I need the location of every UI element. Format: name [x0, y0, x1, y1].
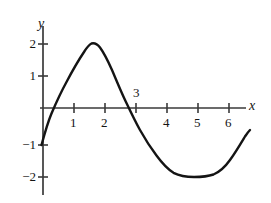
y-tick-label-minus-2: −2: [8, 170, 36, 183]
x-tick-label-3: 3: [133, 86, 140, 99]
y-tick-label-minus-1: −1: [8, 138, 36, 151]
y-tick-label-1: 1: [12, 69, 36, 82]
function-graph-figure: y x 2 1 −1 −2 1 2 3 4 5 6: [0, 0, 271, 203]
function-curve: [42, 43, 251, 177]
x-tick-label-1: 1: [70, 116, 77, 129]
x-tick-label-2: 2: [101, 116, 108, 129]
x-tick-label-4: 4: [163, 116, 170, 129]
y-tick-label-2: 2: [12, 37, 36, 50]
x-axis-label: x: [249, 99, 255, 113]
y-axis-label: y: [38, 17, 44, 31]
x-tick-label-6: 6: [225, 116, 232, 129]
x-tick-label-5: 5: [194, 116, 201, 129]
